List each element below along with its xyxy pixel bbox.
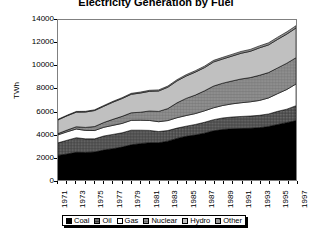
x-tick-label: 1997 [301,190,309,208]
legend-item-other[interactable]: Other [215,217,242,225]
x-tick-mark [205,181,206,184]
x-tick-mark [251,181,252,184]
x-tick-label: 1983 [171,190,179,208]
x-tick-mark [214,181,215,184]
legend-swatch-gas [117,218,123,224]
x-tick-mark [269,181,270,184]
x-tick-label: 1987 [208,190,216,208]
chart-container: Electricity Generation by Fuel TWh 14000… [0,0,312,242]
legend-item-coal[interactable]: Coal [66,217,89,225]
x-tick-label: 1989 [227,190,235,208]
x-tick-label: 1981 [153,190,161,208]
legend-swatch-hydro [182,218,188,224]
x-tick-mark [195,181,196,184]
x-tick-label: 1991 [245,190,253,208]
x-tick-mark [242,181,243,184]
legend-swatch-other [215,218,221,224]
y-tick-mark [54,19,57,20]
legend-swatch-oil [94,218,100,224]
x-tick-mark [94,181,95,184]
x-tick-mark [279,181,280,184]
y-tick-mark [54,65,57,66]
legend-swatch-coal [66,218,72,224]
x-tick-mark [223,181,224,184]
x-axis-tick-labels: 1971197319751977197919811983198519871989… [0,0,312,242]
x-tick-label: 1995 [282,190,290,208]
x-tick-mark [297,181,298,184]
x-tick-mark [112,181,113,184]
legend-label: Hydro [190,217,210,225]
chart-legend: CoalOilGasNuclearHydroOther [62,215,246,226]
x-tick-label: 1971 [61,190,69,208]
legend-item-hydro[interactable]: Hydro [182,217,210,225]
legend-label: Oil [102,217,111,225]
x-tick-mark [57,181,58,184]
x-tick-mark [260,181,261,184]
legend-label: Coal [74,217,89,225]
legend-label: Gas [125,217,139,225]
x-tick-mark [149,181,150,184]
x-tick-mark [177,181,178,184]
x-tick-mark [66,181,67,184]
x-tick-label: 1979 [134,190,142,208]
x-tick-mark [168,181,169,184]
x-tick-mark [75,181,76,184]
x-tick-mark [288,181,289,184]
x-tick-label: 1993 [264,190,272,208]
x-tick-mark [131,181,132,184]
x-tick-mark [232,181,233,184]
legend-label: Nuclear [151,217,177,225]
x-tick-label: 1985 [190,190,198,208]
y-tick-mark [54,112,57,113]
x-tick-mark [186,181,187,184]
x-tick-mark [85,181,86,184]
x-tick-label: 1973 [79,190,87,208]
y-tick-mark [54,88,57,89]
legend-item-oil[interactable]: Oil [94,217,111,225]
y-tick-mark [54,42,57,43]
y-tick-mark [54,158,57,159]
x-tick-label: 1975 [97,190,105,208]
legend-item-nuclear[interactable]: Nuclear [143,217,177,225]
x-tick-mark [140,181,141,184]
x-tick-mark [122,181,123,184]
y-tick-mark [54,135,57,136]
legend-swatch-nuclear [143,218,149,224]
legend-label: Other [223,217,242,225]
x-tick-label: 1977 [116,190,124,208]
x-tick-mark [159,181,160,184]
x-tick-mark [103,181,104,184]
legend-item-gas[interactable]: Gas [117,217,139,225]
